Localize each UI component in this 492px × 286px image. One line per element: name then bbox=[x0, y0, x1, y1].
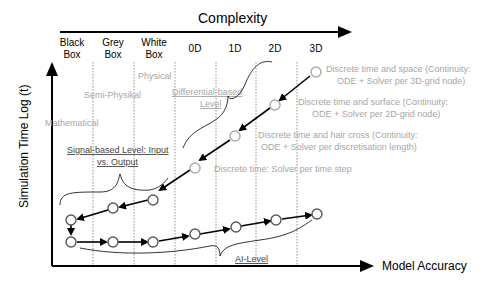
svg-text:White: White bbox=[141, 37, 167, 48]
label-3d: Discrete time and space (Continuity: bbox=[326, 64, 471, 74]
column-headers: BlackBox GreyBox WhiteBox 0D 1D 2D 3D bbox=[60, 37, 323, 60]
complexity-title: Complexity bbox=[198, 10, 267, 26]
svg-text:Grey: Grey bbox=[102, 37, 124, 48]
label-mathematical: Mathematical bbox=[45, 118, 99, 128]
label-1d-2: ODE + Solver per discretisation length) bbox=[261, 142, 417, 152]
label-2d: Discrete time and surface (Continuity: bbox=[298, 97, 448, 107]
svg-text:3D: 3D bbox=[310, 43, 323, 54]
label-differential-level: Level bbox=[200, 99, 222, 109]
label-signal-2: vs. Output bbox=[97, 157, 139, 167]
svg-text:Black: Black bbox=[60, 37, 85, 48]
y-axis-label: Simulation Time Log (t) bbox=[17, 85, 31, 208]
svg-text:Box: Box bbox=[104, 49, 121, 60]
label-semi-physical: Semi-Physikal bbox=[84, 90, 141, 100]
label-differential: Differential-based bbox=[172, 87, 242, 97]
diagram-canvas: Complexity BlackBox GreyBox WhiteBox 0D … bbox=[0, 0, 492, 286]
label-physical: Physical bbox=[138, 71, 172, 81]
svg-text:1D: 1D bbox=[229, 43, 242, 54]
svg-text:0D: 0D bbox=[189, 43, 202, 54]
svg-text:Box: Box bbox=[145, 49, 162, 60]
label-0d: Discrete time: Solver per time step bbox=[214, 164, 352, 174]
label-ai-level: AI-Level bbox=[235, 254, 268, 264]
svg-text:2D: 2D bbox=[269, 43, 282, 54]
label-3d-2: ODE + Solver per 3D-grid node) bbox=[337, 76, 465, 86]
x-axis-label: Model Accuracy bbox=[382, 259, 467, 273]
label-signal: Signal-based Level: Input bbox=[67, 145, 169, 155]
label-1d: Discrete time and hair cross (Continuity… bbox=[258, 130, 418, 140]
svg-text:Box: Box bbox=[63, 49, 80, 60]
label-2d-2: ODE + Solver per 2D-grid node) bbox=[312, 109, 440, 119]
